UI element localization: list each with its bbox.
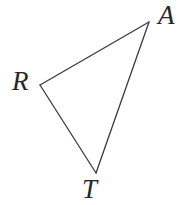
vertex-label-r: R [12,68,29,95]
vertex-label-t: T [82,176,97,203]
vertex-label-a: A [158,2,175,29]
edge-R-A [40,22,149,85]
triangle-figure: A R T [0,0,193,205]
edge-T-R [40,85,96,173]
edge-A-T [96,22,149,173]
triangle-edges [40,22,149,173]
